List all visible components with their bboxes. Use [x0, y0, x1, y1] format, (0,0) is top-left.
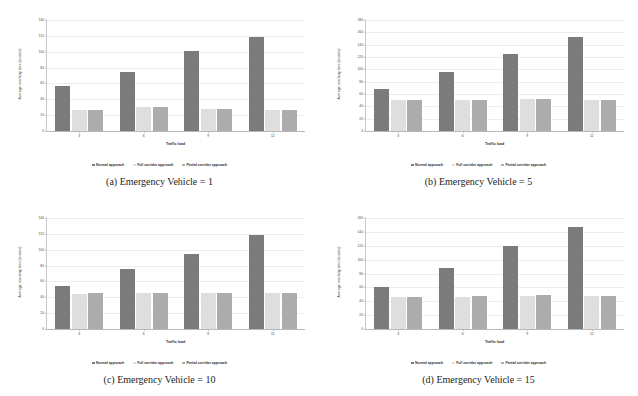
plot-area: Average reaching time (in units)02040608… — [0, 0, 319, 150]
x-axis-title: Traffic load — [46, 142, 305, 146]
x-tick-label: 6 — [143, 332, 145, 336]
legend-item[interactable]: Normal approach — [411, 361, 443, 365]
bar[interactable] — [503, 246, 518, 329]
legend-item[interactable]: Partial corridor approach — [501, 163, 546, 167]
bar[interactable] — [601, 296, 616, 329]
legend-label: Normal approach — [415, 361, 443, 365]
bar[interactable] — [136, 293, 151, 329]
bar-group: 6 — [431, 20, 496, 131]
x-tick-mark — [527, 131, 528, 133]
bar[interactable] — [439, 268, 454, 329]
bar[interactable] — [391, 297, 406, 329]
bar[interactable] — [407, 100, 422, 131]
bar[interactable] — [584, 296, 599, 329]
bar[interactable] — [568, 227, 583, 329]
y-axis-title-text: Average reaching time (in units) — [17, 246, 21, 297]
x-tick-mark — [592, 329, 593, 331]
bar-group: 9 — [176, 218, 241, 329]
legend-label: Partial corridor approach — [187, 163, 228, 167]
bar[interactable] — [72, 294, 87, 329]
legend-item[interactable]: Full corridor approach — [133, 163, 173, 167]
legend-swatch-icon — [182, 164, 185, 167]
legend-item[interactable]: Full corridor approach — [133, 361, 173, 365]
y-tick-label: 80 — [40, 264, 44, 268]
bar[interactable] — [88, 293, 103, 329]
bar[interactable] — [265, 293, 280, 329]
bar[interactable] — [249, 235, 264, 329]
y-axis-title: Average reaching time (in units) — [333, 216, 343, 328]
y-tick-label: 160 — [357, 30, 363, 34]
bar[interactable] — [520, 99, 535, 131]
x-axis-title: Traffic load — [365, 340, 624, 344]
bar[interactable] — [455, 297, 470, 329]
bar[interactable] — [374, 287, 389, 329]
bar[interactable] — [536, 99, 551, 131]
bar[interactable] — [374, 89, 389, 131]
bar[interactable] — [472, 100, 487, 131]
bar[interactable] — [455, 100, 470, 131]
bar[interactable] — [282, 293, 297, 329]
bar[interactable] — [120, 72, 135, 131]
bar[interactable] — [184, 254, 199, 329]
bar[interactable] — [217, 109, 232, 131]
legend-item[interactable]: Full corridor approach — [452, 163, 492, 167]
y-tick-label: 40 — [359, 299, 363, 303]
y-tick-label: 0 — [42, 129, 44, 133]
legend: Normal approachFull corridor approachPar… — [319, 163, 638, 167]
bar[interactable] — [568, 37, 583, 131]
y-tick-label: 100 — [357, 258, 363, 262]
legend-item[interactable]: Partial corridor approach — [501, 361, 546, 365]
x-tick-mark — [79, 329, 80, 331]
bar[interactable] — [88, 110, 103, 131]
bar[interactable] — [503, 54, 518, 131]
bar[interactable] — [153, 293, 168, 329]
bar[interactable] — [407, 297, 422, 329]
x-tick-label: 9 — [207, 134, 209, 138]
x-tick-mark — [273, 329, 274, 331]
y-tick-label: 0 — [42, 327, 44, 331]
axes: 02040608010012014016036912 — [365, 218, 624, 330]
bar[interactable] — [55, 86, 70, 131]
legend-item[interactable]: Partial corridor approach — [182, 361, 227, 365]
x-tick-mark — [208, 329, 209, 331]
bar[interactable] — [536, 295, 551, 329]
bar[interactable] — [439, 72, 454, 131]
bar[interactable] — [601, 100, 616, 131]
bar[interactable] — [201, 293, 216, 329]
bar[interactable] — [153, 107, 168, 131]
bar[interactable] — [55, 286, 70, 329]
y-tick-label: 60 — [359, 92, 363, 96]
legend-item[interactable]: Normal approach — [92, 163, 124, 167]
x-tick-label: 3 — [397, 134, 399, 138]
bar[interactable] — [136, 107, 151, 131]
x-tick-label: 3 — [78, 134, 80, 138]
y-tick-label: 80 — [359, 272, 363, 276]
y-tick-label: 100 — [38, 248, 44, 252]
legend-swatch-icon — [92, 164, 95, 167]
legend-item[interactable]: Partial corridor approach — [182, 163, 227, 167]
bar[interactable] — [184, 51, 199, 131]
x-tick-mark — [79, 131, 80, 133]
x-tick-label: 6 — [143, 134, 145, 138]
bar[interactable] — [472, 296, 487, 329]
legend-label: Partial corridor approach — [506, 361, 547, 365]
bar[interactable] — [217, 293, 232, 329]
bar-groups: 36912 — [366, 20, 624, 131]
legend-item[interactable]: Normal approach — [411, 163, 443, 167]
bar[interactable] — [201, 109, 216, 131]
x-tick-label: 9 — [526, 134, 528, 138]
bar[interactable] — [265, 110, 280, 131]
bar[interactable] — [520, 296, 535, 329]
y-axis-title: Average reaching time (in units) — [14, 216, 24, 328]
legend-item[interactable]: Normal approach — [92, 361, 124, 365]
legend-item[interactable]: Full corridor approach — [452, 361, 492, 365]
bar[interactable] — [282, 110, 297, 131]
legend-swatch-icon — [452, 164, 455, 167]
bar[interactable] — [120, 269, 135, 329]
bar[interactable] — [584, 100, 599, 131]
bar-group: 9 — [495, 20, 560, 131]
bar[interactable] — [249, 37, 264, 131]
bar-group: 6 — [112, 20, 177, 131]
bar[interactable] — [72, 110, 87, 131]
bar[interactable] — [391, 100, 406, 131]
